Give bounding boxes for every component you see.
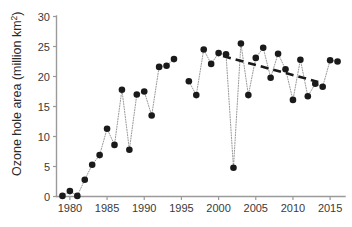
x-tick-label-1985: 1985 [95, 202, 119, 214]
x-tick-label-1995: 1995 [169, 202, 193, 214]
x-tick-label-2015: 2015 [318, 202, 342, 214]
x-tick-label-2000: 2000 [206, 202, 230, 214]
data-point-2012 [305, 93, 312, 100]
data-point-1985 [104, 125, 111, 132]
data-point-2015 [327, 57, 334, 64]
data-point-1982 [81, 176, 88, 183]
data-point-1988 [126, 146, 133, 153]
y-axis-title-text: Ozone hole area (million km [10, 20, 24, 176]
svg-text:Ozone hole area (million km2): Ozone hole area (million km2) [9, 11, 24, 176]
x-tick-label-2010: 2010 [281, 202, 305, 214]
data-point-1987 [119, 86, 126, 93]
y-tick-label-5: 5 [44, 161, 50, 173]
y-tick-label-25: 25 [38, 41, 50, 53]
data-point-2005 [252, 55, 259, 62]
y-tick-label-10: 10 [38, 131, 50, 143]
data-point-2003 [238, 40, 245, 47]
data-point-1998 [200, 46, 207, 53]
ozone-hole-area-chart: Ozone hole area (million km2) 0 5 10 15 … [0, 0, 352, 227]
data-point-2002 [230, 164, 237, 171]
y-axis-title: Ozone hole area (million km2) [9, 11, 24, 176]
data-point-1996 [186, 78, 193, 85]
data-point-1989 [134, 91, 141, 98]
data-point-1997 [193, 92, 200, 99]
data-point-2004 [245, 92, 252, 99]
x-tick-label-2005: 2005 [244, 202, 268, 214]
y-tick-label-15: 15 [38, 101, 50, 113]
y-tick-label-0: 0 [44, 191, 50, 203]
data-point-1984 [96, 152, 103, 159]
x-axis-ticks: 19801985199019952000200520102015 [58, 197, 343, 214]
y-tick-label-20: 20 [38, 71, 50, 83]
data-point-1979 [59, 193, 66, 200]
data-point-1990 [141, 88, 148, 95]
chart-svg: Ozone hole area (million km2) 0 5 10 15 … [0, 0, 352, 227]
data-point-2014 [319, 83, 326, 90]
data-point-2007 [267, 74, 274, 81]
data-point-1986 [111, 142, 118, 149]
data-point-2008 [275, 50, 282, 57]
data-point-1992 [156, 64, 163, 71]
data-point-2009 [282, 66, 289, 73]
data-markers [59, 40, 341, 199]
data-point-2006 [260, 44, 267, 51]
data-point-2001 [223, 51, 230, 58]
y-tick-label-30: 30 [38, 11, 50, 23]
series-connectors [62, 44, 337, 196]
data-point-1981 [74, 193, 81, 200]
data-point-2016 [334, 58, 341, 65]
data-point-2010 [290, 97, 297, 104]
x-tick-label-1990: 1990 [132, 202, 156, 214]
data-point-1993 [163, 62, 170, 69]
data-point-1983 [89, 161, 96, 168]
data-point-2000 [215, 50, 222, 57]
data-point-1994 [171, 56, 178, 63]
series-connector-segment [62, 59, 174, 196]
data-point-1980 [67, 188, 74, 195]
y-axis-ticks: 0 5 10 15 20 25 30 [38, 11, 57, 203]
data-point-2013 [312, 80, 319, 87]
x-tick-label-1980: 1980 [58, 202, 82, 214]
data-point-1999 [208, 61, 215, 68]
data-point-1991 [148, 112, 155, 119]
y-axis-title-tail: ) [10, 11, 24, 15]
data-point-2011 [297, 56, 304, 63]
